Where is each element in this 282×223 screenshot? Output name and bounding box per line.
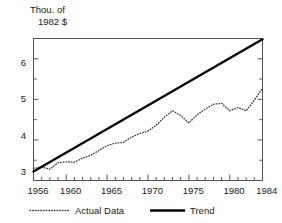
series-trend bbox=[34, 39, 263, 171]
chart-container: Thou. of 1982 $ 6 5 4 3 1956 1960 1965 1… bbox=[0, 0, 282, 223]
series-actual-data bbox=[34, 88, 263, 169]
plot-area bbox=[0, 0, 282, 223]
data-series bbox=[34, 39, 263, 171]
